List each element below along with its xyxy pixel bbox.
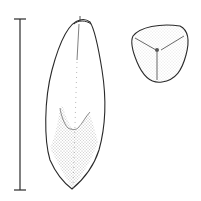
- scale-bar: [14, 19, 26, 190]
- seed-side-view: [46, 16, 105, 189]
- seed-illustration: [0, 0, 201, 201]
- seed-cross-section-view: [132, 25, 188, 82]
- illustration-canvas: [0, 0, 201, 201]
